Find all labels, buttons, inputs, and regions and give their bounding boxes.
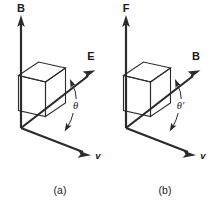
panel-a-caption: (a) [54, 184, 67, 196]
panel-a-velocity-axis [21, 128, 91, 158]
panel-a-vertical-vector-label: B [17, 2, 25, 14]
panel-a-cube [19, 62, 66, 117]
panel-a-cube-right-face [46, 68, 66, 117]
panel-b-angle-label: θ′ [177, 100, 185, 111]
panel-b-vertical-vector-label: F [123, 2, 130, 14]
panel-b-cube [124, 62, 171, 117]
panel-a-angle-arc-lower [68, 113, 74, 127]
panel-b-angle-arc-lower [173, 113, 179, 127]
panel-a-velocity-axis-line [21, 128, 83, 152]
panel-a-cube-left-face [19, 76, 46, 117]
vector-diagram-figure: B E v θ (a) [0, 0, 217, 208]
panel-a-angle-label: θ [73, 100, 78, 111]
diagram-canvas: B E v θ (a) [0, 0, 217, 208]
panel-b-velocity-vector-label: v [200, 150, 206, 161]
panel-a-angle-arc-lower-arrowhead-icon [65, 123, 72, 132]
panel-b-velocity-axis [126, 128, 196, 158]
panel-b-cube-top-face [124, 62, 171, 82]
panel-a-velocity-arrowhead-icon [78, 151, 92, 158]
panel-b-cube-right-face [151, 68, 171, 117]
panel-b-diagonal-vector-label: B [192, 50, 200, 62]
panel-b-caption: (b) [159, 184, 172, 196]
panel-b-angle-arc-lower-arrowhead-icon [170, 123, 177, 132]
panel-b: F B v θ′ (b) [122, 2, 206, 196]
panel-a-diagonal-vector-label: E [87, 50, 94, 62]
panel-a: B E v θ (a) [17, 2, 101, 196]
panel-b-cube-left-face [124, 76, 151, 117]
panel-b-velocity-arrowhead-icon [183, 151, 197, 158]
panel-a-velocity-vector-label: v [95, 150, 101, 161]
panel-a-cube-top-face [19, 62, 66, 82]
panel-b-velocity-axis-line [126, 128, 188, 152]
